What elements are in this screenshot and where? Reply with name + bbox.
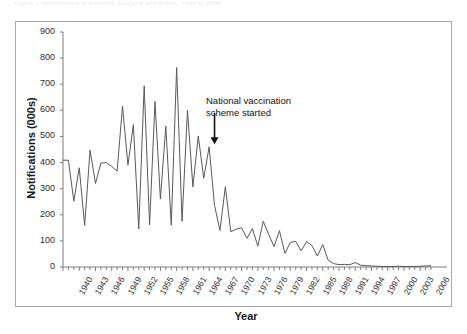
x-axis-title: Year [166,310,326,322]
y-tick-label: 400 [21,157,55,167]
annotation-line-2: scheme started [206,107,291,119]
figure-root: Figure 1 Notifications of measles, Engla… [0,0,467,334]
y-tick-label: 600 [21,104,55,114]
y-tick-label: 0 [21,261,55,271]
y-tick-label: 100 [21,235,55,245]
y-axis-title: Notifications (000s) [25,73,37,223]
annotation-line-1: National vaccination [206,95,291,107]
annotation-arrow-head [211,137,219,144]
figure-caption: Figure 1 Notifications of measles, Engla… [14,0,444,12]
line-chart-plot [16,22,451,306]
y-tick-label: 300 [21,183,55,193]
y-tick-label: 700 [21,78,55,88]
annotation-vaccination-scheme: National vaccination scheme started [206,95,291,119]
chart-frame: Notifications (000s) Year National vacci… [15,21,452,307]
y-tick-label: 800 [21,52,55,62]
y-tick-label: 200 [21,209,55,219]
y-tick-label: 500 [21,130,55,140]
y-tick-label: 900 [21,26,55,36]
